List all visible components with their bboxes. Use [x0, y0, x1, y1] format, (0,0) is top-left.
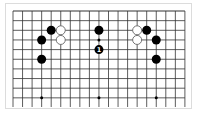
white-stone — [56, 35, 65, 44]
star-point — [97, 96, 100, 99]
black-stone — [94, 26, 103, 35]
star-point — [97, 38, 100, 41]
black-stone — [37, 35, 46, 44]
black-stone — [142, 26, 151, 35]
white-stone — [133, 26, 142, 35]
white-stone — [133, 35, 142, 44]
star-point — [155, 96, 158, 99]
star-point — [40, 96, 43, 99]
go-board[interactable]: 1 — [0, 0, 197, 117]
move-number-label: 1 — [97, 46, 102, 54]
black-stone — [47, 26, 56, 35]
black-stone — [152, 35, 161, 44]
white-stone — [56, 26, 65, 35]
black-stone — [152, 55, 161, 64]
black-stone — [37, 55, 46, 64]
